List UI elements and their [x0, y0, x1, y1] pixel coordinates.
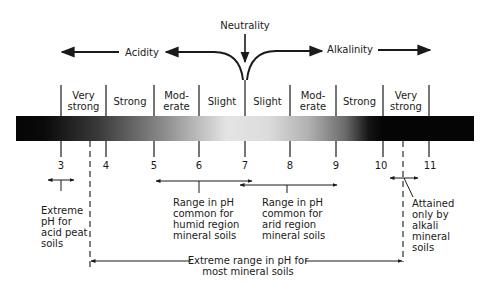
tick-label-3: 3: [58, 160, 64, 171]
tick-label-5: 5: [151, 160, 157, 171]
humid-range-arrow: [156, 181, 252, 193]
acid-peat-annotation: Extreme pH for acid peat soils: [41, 205, 87, 249]
alkali-range-arrow: [390, 178, 418, 197]
tick-label-8: 8: [287, 160, 293, 171]
arid-range-arrow: [240, 185, 337, 193]
tick-marks: [61, 141, 429, 157]
category-strong-acid: Strong: [106, 88, 154, 114]
ph-scale-diagram: Neutrality Acidity Alkalinity Very stron…: [0, 0, 484, 285]
neutrality-label: Neutrality: [220, 20, 270, 31]
category-slight-acid: Slight: [199, 88, 245, 114]
tick-label-4: 4: [103, 160, 109, 171]
tick-label-6: 6: [196, 160, 202, 171]
acid-peat-range-arrow: [48, 180, 74, 191]
alkali-annotation: Attained only by alkali mineral soils: [412, 198, 454, 253]
category-moderate-acid: Mod- erate: [154, 88, 199, 114]
extreme-range-annotation: Extreme range in pH for most mineral soi…: [188, 255, 309, 277]
humid-region-annotation: Range in pH common for humid region mine…: [173, 197, 239, 241]
tick-label-11: 11: [424, 160, 437, 171]
category-very-strong-alkaline: Very strong: [383, 88, 429, 114]
category-moderate-alkaline: Mod- erate: [290, 88, 336, 114]
ph-gradient-bar: [16, 116, 474, 141]
acidity-label: Acidity: [125, 47, 159, 58]
alkalinity-label: Alkalinity: [327, 44, 373, 55]
category-very-strong-acid: Very strong: [61, 88, 106, 114]
tick-label-9: 9: [333, 160, 339, 171]
tick-label-10: 10: [375, 160, 388, 171]
arid-region-annotation: Range in pH common for arid region miner…: [262, 197, 325, 241]
category-slight-alkaline: Slight: [245, 88, 290, 114]
category-strong-alkaline: Strong: [336, 88, 383, 114]
tick-label-7: 7: [242, 160, 248, 171]
